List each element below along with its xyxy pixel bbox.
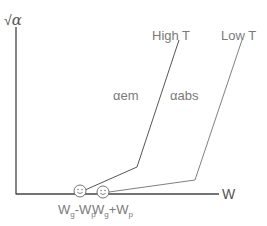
series-label-alpha-em: αem [113,88,139,103]
alpha-symbol: α [12,11,22,29]
smiley-icon [74,185,86,197]
curve-high-t [85,40,179,190]
smiley-icon [97,186,109,198]
y-axis-label: √α [4,11,22,29]
marker-label-wg-plus-wp: Wg+Wp [92,202,134,219]
marker-label-wg-minus-wp: Wg-Wp [58,202,96,219]
curve-label-high-t: High T [152,28,190,43]
series-label-alpha-abs: αabs [170,88,199,103]
curve-low-t [109,40,242,192]
curve-label-low-t: Low T [221,28,256,43]
diagram-canvas: √α W High T Low T αem αabs Wg-Wp Wg+Wp [0,0,267,226]
x-axis-label: W [222,186,236,202]
